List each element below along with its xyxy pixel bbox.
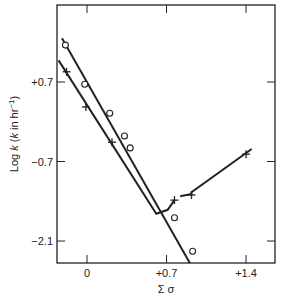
chart: 0+0.7+1.4+0.7−0.7−2.1 Σ σ Log k (k in hr… — [0, 0, 284, 301]
circles-fit-line — [62, 38, 201, 282]
x-tick-label: 0 — [84, 267, 90, 279]
x-tick-label: +1.4 — [235, 267, 257, 279]
crosses-fit-line — [59, 60, 175, 213]
cross-marker — [82, 103, 90, 111]
plot-frame — [57, 5, 275, 263]
y-axis-title: Log k (k in hr−1) — [7, 96, 20, 172]
y-tick-label: −2.1 — [31, 235, 53, 247]
circle-marker — [82, 81, 88, 87]
y-tick-label: −0.7 — [31, 156, 53, 168]
circle-marker — [121, 133, 127, 139]
data-markers — [62, 42, 250, 254]
x-axis-title: Σ σ — [158, 283, 175, 295]
axis-ticks — [57, 5, 275, 263]
circle-marker — [107, 110, 113, 116]
fit-lines — [59, 38, 252, 282]
circle-marker — [190, 248, 196, 254]
circle-marker — [127, 145, 133, 151]
crosses-fit-line — [180, 149, 252, 196]
y-tick-label: +0.7 — [31, 76, 53, 88]
circle-marker — [62, 42, 68, 48]
cross-marker — [188, 191, 196, 199]
x-tick-label: +0.7 — [156, 267, 178, 279]
tick-labels: 0+0.7+1.4+0.7−0.7−2.1 — [31, 76, 257, 279]
circle-marker — [171, 215, 177, 221]
